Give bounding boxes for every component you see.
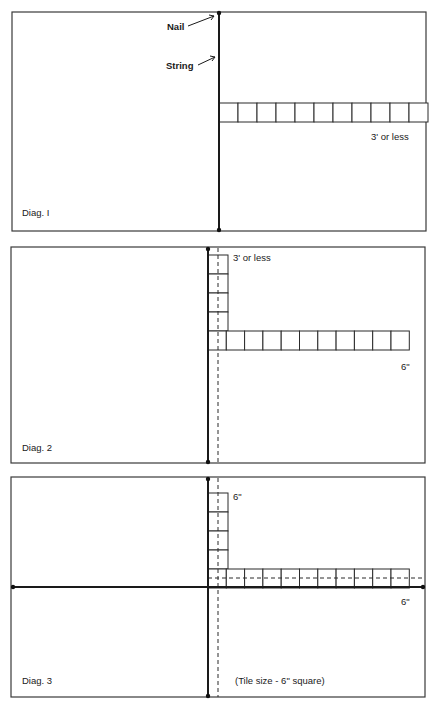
nail-icon bbox=[206, 694, 210, 698]
tile bbox=[295, 103, 314, 122]
nail-icon bbox=[217, 228, 221, 232]
tile bbox=[263, 331, 281, 350]
tile bbox=[257, 103, 276, 122]
string-label: String bbox=[166, 60, 194, 71]
diagram-1: Nail String 3' or less Diag. I bbox=[12, 11, 428, 232]
diagram-caption: Diag. I bbox=[22, 207, 49, 218]
tiling-diagrams: Nail String 3' or less Diag. I 3' or les… bbox=[0, 0, 433, 708]
nail-icon bbox=[206, 460, 210, 464]
diagram-3: 6" 6" (Tile size - 6" square) Diag. 3 bbox=[11, 477, 425, 698]
right-measure-label: 6" bbox=[401, 596, 410, 607]
diagram-caption: Diag. 2 bbox=[22, 442, 52, 453]
diagram-1-tile-row bbox=[219, 103, 428, 122]
nail-label: Nail bbox=[167, 21, 184, 32]
top-measure-label: 6" bbox=[233, 491, 242, 502]
diagram-2-tile-row bbox=[208, 331, 409, 350]
top-measure-label: 3' or less bbox=[233, 252, 271, 263]
tile bbox=[300, 331, 318, 350]
tile bbox=[208, 293, 228, 312]
tile bbox=[373, 331, 391, 350]
tile bbox=[333, 103, 352, 122]
tile bbox=[208, 531, 228, 550]
tile bbox=[371, 103, 390, 122]
tile bbox=[409, 103, 428, 122]
tile bbox=[390, 103, 409, 122]
diagram-caption: Diag. 3 bbox=[22, 675, 52, 686]
nail-pointer-arrow bbox=[188, 16, 214, 26]
nail-icon bbox=[206, 247, 210, 251]
nail-icon bbox=[421, 585, 425, 589]
tile bbox=[373, 569, 391, 588]
tile bbox=[219, 103, 238, 122]
tile bbox=[238, 103, 257, 122]
tile bbox=[281, 331, 299, 350]
tile bbox=[336, 331, 354, 350]
tile bbox=[352, 103, 371, 122]
tile bbox=[391, 331, 409, 350]
tile bbox=[314, 103, 333, 122]
tile bbox=[354, 331, 372, 350]
tile bbox=[226, 331, 244, 350]
nail-icon bbox=[206, 477, 210, 481]
tile bbox=[245, 331, 263, 350]
nail-icon bbox=[217, 11, 221, 15]
tile-size-note: (Tile size - 6" square) bbox=[235, 675, 325, 686]
tile bbox=[318, 331, 336, 350]
right-measure-label: 6" bbox=[401, 361, 410, 372]
diagram-2: 3' or less 6" Diag. 2 bbox=[11, 247, 425, 464]
nail-icon bbox=[11, 585, 15, 589]
tile bbox=[276, 103, 295, 122]
tile bbox=[208, 550, 228, 569]
tile bbox=[208, 331, 226, 350]
measure-label: 3' or less bbox=[371, 131, 409, 142]
tile bbox=[281, 569, 299, 588]
